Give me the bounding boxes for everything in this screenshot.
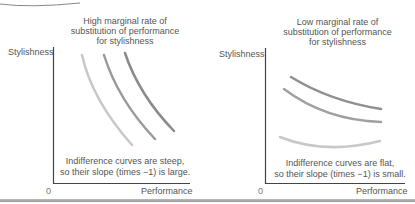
caption-line: so their slope (times −1) is small.	[270, 169, 410, 180]
caption: Indifference curves are steep, so their …	[60, 156, 190, 178]
x-axis-label: Performance	[141, 186, 193, 196]
caption-line: so their slope (times −1) is large.	[60, 167, 190, 178]
caption: Indifference curves are flat, so their s…	[270, 158, 410, 180]
origin-label: 0	[46, 186, 51, 196]
origin-label: 0	[258, 186, 263, 196]
bottom-divider	[0, 199, 415, 202]
indifference-curve-3	[125, 53, 174, 131]
x-axis-label: Performance	[356, 186, 408, 196]
caption-line: Indifference curves are steep,	[60, 156, 190, 167]
panel-low-mrs: Low marginal rate of substitution of per…	[205, 0, 415, 204]
panel-high-mrs: High marginal rate of substitution of pe…	[0, 0, 205, 204]
indifference-curve-3	[291, 77, 381, 109]
caption-line: Indifference curves are flat,	[270, 158, 410, 169]
indifference-curve-1	[280, 137, 380, 147]
